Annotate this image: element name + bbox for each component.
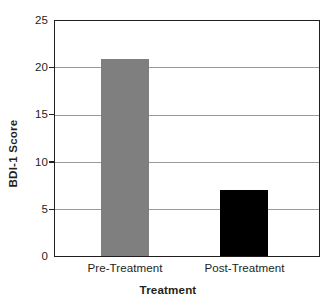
y-axis-title-label: BDI-1 Score (7, 119, 20, 187)
y-tick-label-5: 5 (14, 203, 48, 215)
y-tick-label-10: 10 (14, 156, 48, 168)
y-tick-label-15: 15 (14, 108, 48, 120)
x-tick-label-post-treatment: Post-Treatment (183, 261, 306, 274)
gridline-10 (55, 162, 319, 163)
bar-pre-treatment (101, 59, 149, 256)
plot-area (54, 20, 320, 257)
gridline-15 (55, 115, 319, 116)
bar-chart: BDI-1 Score 25 20 15 10 5 0 Pre-Treatmen… (0, 0, 336, 306)
x-axis-title: Treatment (0, 283, 336, 296)
bar-post-treatment (220, 190, 268, 256)
y-tick-label-20: 20 (14, 61, 48, 73)
y-tick-label-25: 25 (14, 14, 48, 26)
y-tick-label-0: 0 (14, 250, 48, 262)
gridline-20 (55, 67, 319, 68)
x-tick-label-pre-treatment: Pre-Treatment (65, 261, 185, 274)
gridline-5 (55, 209, 319, 210)
